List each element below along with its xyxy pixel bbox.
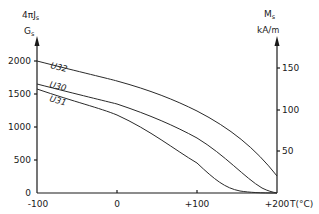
- left-tick-1000: 1000: [8, 122, 31, 132]
- right-axis-title-line1: Ms: [264, 9, 276, 21]
- x-tick-200: +200: [265, 199, 290, 209]
- label-u30: U30: [49, 79, 68, 93]
- right-tick-50: 50: [282, 146, 294, 156]
- right-tick-100: 100: [282, 105, 299, 115]
- right-ticks: 150 100 50: [277, 63, 299, 156]
- left-tick-500: 500: [14, 155, 31, 165]
- left-axis-arrow-icon: [35, 36, 40, 46]
- x-tick-0: 0: [114, 199, 120, 209]
- left-ticks: 2000 1500 1000 500 0: [8, 56, 37, 198]
- magnetization-chart: 4πJs Gs Ms kA/m 2000 1500 1000 500 0 150…: [0, 0, 319, 214]
- curve-u31: [37, 89, 277, 193]
- right-tick-150: 150: [282, 63, 299, 73]
- x-tick-minus100: -100: [28, 199, 49, 209]
- left-axis-title-line2: Gs: [24, 26, 35, 38]
- label-u31: U31: [48, 93, 67, 107]
- right-axis-arrow-icon: [275, 36, 280, 46]
- right-axis-title-line2: kA/m: [257, 25, 279, 35]
- x-axis-unit: T(°C): [289, 199, 313, 209]
- x-tick-100: +100: [185, 199, 210, 209]
- left-axis-title-line1: 4πJs: [22, 10, 40, 22]
- left-tick-0: 0: [25, 188, 31, 198]
- left-tick-1500: 1500: [8, 89, 31, 99]
- left-tick-2000: 2000: [8, 56, 31, 66]
- label-u32: U32: [50, 60, 69, 74]
